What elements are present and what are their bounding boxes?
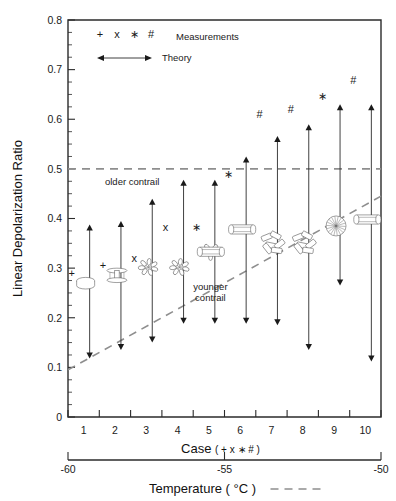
temperature-tick-label: -60 bbox=[60, 463, 75, 475]
x-tick-label: 3 bbox=[143, 424, 149, 436]
x-tick-label: 4 bbox=[175, 424, 181, 436]
x-tick-label: 8 bbox=[300, 424, 306, 436]
measurement-marker: + bbox=[100, 259, 106, 271]
theory-range-arrow bbox=[86, 224, 92, 358]
crystal-habit-hollow-column bbox=[354, 215, 381, 224]
theory-range-arrow bbox=[118, 221, 124, 350]
legend-symbol: # bbox=[148, 28, 155, 40]
theory-range-arrow bbox=[180, 180, 186, 324]
x-tick-label: 7 bbox=[269, 424, 275, 436]
temperature-tick-label: -55 bbox=[217, 463, 232, 475]
x-tick-label: 10 bbox=[360, 424, 372, 436]
measurement-marker: # bbox=[288, 103, 295, 115]
annotations: older contrailyoungercontrail bbox=[105, 176, 228, 304]
y-axis-title: Linear Depolarization Ratio bbox=[10, 140, 25, 297]
measurement-marker: # bbox=[350, 74, 357, 86]
y-tick-label: 0.1 bbox=[47, 361, 62, 373]
temperature-tick-label: -50 bbox=[373, 463, 388, 475]
y-axis: 00.10.20.30.40.50.60.70.8Linear Depolari… bbox=[10, 14, 75, 423]
y-tick-label: 0.2 bbox=[47, 312, 62, 324]
theory-range-arrow bbox=[274, 136, 280, 325]
crystal-habit-bullet-rosette-column bbox=[197, 243, 224, 260]
chart-annotation: older contrail bbox=[105, 176, 159, 187]
crystal-habit-bullet-rosette bbox=[138, 258, 158, 276]
crystal-habit-hollow-column bbox=[229, 225, 256, 234]
measurement-marker: ∗ bbox=[192, 221, 201, 233]
measurement-marker: + bbox=[68, 267, 74, 279]
measurement-marker: x bbox=[163, 221, 169, 233]
crystal-habit-capped-column bbox=[107, 268, 127, 282]
temperature-axis-title: Temperature ( °C ) bbox=[149, 481, 256, 496]
y-tick-label: 0.8 bbox=[47, 14, 62, 26]
x-tick-label: 1 bbox=[81, 424, 87, 436]
crystal-habit-bullet-rosette bbox=[169, 258, 189, 276]
x-tick-label: 9 bbox=[331, 424, 337, 436]
measurement-marker: x bbox=[132, 252, 138, 264]
measurement-marker: # bbox=[256, 108, 263, 120]
chart-annotation: youngercontrail bbox=[193, 281, 227, 303]
legend-symbol: x bbox=[114, 28, 120, 40]
y-tick-label: 0.5 bbox=[47, 163, 62, 175]
legend-symbol: ∗ bbox=[130, 28, 139, 40]
y-tick-label: 0.6 bbox=[47, 113, 62, 125]
crystal-habit-hexagonal-plate bbox=[77, 277, 95, 289]
theory-range-arrow bbox=[368, 104, 374, 361]
x-tick-label: 2 bbox=[112, 424, 118, 436]
legend: +x∗#MeasurementsTheory bbox=[97, 28, 239, 63]
y-tick-label: 0.7 bbox=[47, 63, 62, 75]
measurement-marker: ∗ bbox=[318, 90, 327, 102]
x-tick-label: 6 bbox=[237, 424, 243, 436]
figure-canvas: 00.10.20.30.40.50.60.70.8Linear Depolari… bbox=[0, 0, 396, 501]
y-tick-label: 0.3 bbox=[47, 262, 62, 274]
crystal-habit-column-aggregate bbox=[261, 231, 286, 255]
theory-range-arrow bbox=[243, 156, 249, 323]
theory-range-arrow bbox=[337, 104, 343, 285]
y-tick-label: 0 bbox=[56, 411, 62, 423]
measurement-marker: ∗ bbox=[224, 168, 233, 180]
y-tick-label: 0.4 bbox=[47, 212, 62, 224]
legend-symbol: + bbox=[97, 28, 103, 40]
x-axis-title: Case ( + x ∗ # ) bbox=[181, 441, 260, 456]
depolarization-ratio-chart: 00.10.20.30.40.50.60.70.8Linear Depolari… bbox=[0, 0, 396, 501]
temperature-axis: -60-55-50Temperature ( °C ) bbox=[60, 452, 388, 496]
x-tick-label: 5 bbox=[206, 424, 212, 436]
legend-label-theory: Theory bbox=[162, 52, 192, 63]
crystal-habit-rosette-aggregate bbox=[326, 216, 346, 236]
legend-label-measurements: Measurements bbox=[176, 31, 239, 42]
